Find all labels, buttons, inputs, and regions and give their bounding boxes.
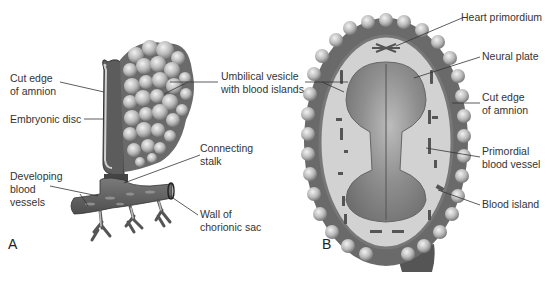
label-heart-primordium: Heart primordium xyxy=(461,11,542,24)
label-umbilical-vesicle: Umbilical vesicle with blood islands xyxy=(221,70,304,96)
umbilical-vesicle-shape xyxy=(120,40,194,172)
label-embryonic-disc: Embryonic disc xyxy=(10,113,81,126)
label-connecting-stalk: Connecting stalk xyxy=(200,142,253,168)
diagram-artwork xyxy=(0,0,547,294)
label-cut-edge-of-amnion-b: Cut edge of amnion xyxy=(482,91,528,117)
label-neural-plate: Neural plate xyxy=(482,50,539,63)
panel-a-artwork xyxy=(71,40,194,240)
label-developing-blood-vessels: Developing blood vessels xyxy=(10,170,63,209)
label-blood-island: Blood island xyxy=(482,198,539,211)
label-cut-edge-of-amnion-a: Cut edge of amnion xyxy=(10,72,56,98)
panel-b-artwork xyxy=(301,13,471,272)
label-primordial-blood-vessel: Primordial blood vessel xyxy=(482,145,540,171)
label-wall-of-chorionic-sac: Wall of chorionic sac xyxy=(200,208,261,234)
panel-letter-a: A xyxy=(8,236,17,252)
panel-letter-b: B xyxy=(322,236,331,252)
